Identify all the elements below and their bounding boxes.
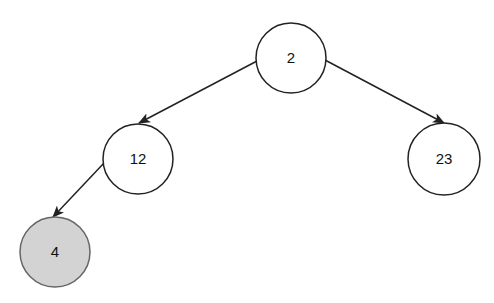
tree-node-2: 2 bbox=[256, 23, 326, 93]
edge-2-to-12 bbox=[139, 61, 257, 123]
tree-node-23: 23 bbox=[408, 123, 480, 195]
node-label: 12 bbox=[130, 150, 147, 167]
tree-node-4-highlighted: 4 bbox=[20, 217, 90, 287]
tree-diagram: 2 12 23 4 bbox=[0, 0, 494, 303]
node-label: 4 bbox=[51, 243, 59, 260]
edge-2-to-23 bbox=[325, 60, 444, 123]
node-label: 23 bbox=[436, 150, 453, 167]
tree-node-12: 12 bbox=[103, 124, 173, 194]
node-label: 2 bbox=[287, 49, 295, 66]
edge-12-to-4 bbox=[53, 163, 104, 217]
